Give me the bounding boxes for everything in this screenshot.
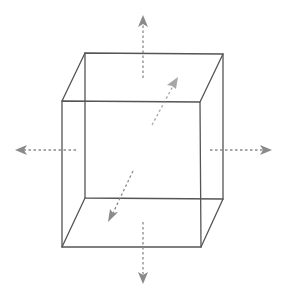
arrow-down-icon: [138, 222, 148, 284]
arrow-up-icon: [138, 15, 148, 78]
arrow-back-icon: [152, 77, 178, 125]
arrow-left-icon: [15, 145, 76, 155]
cube-edge-bottom-right: [201, 199, 223, 247]
arrow-front-icon: [108, 171, 133, 222]
cube-wireframe: [62, 53, 223, 247]
cube-edge-top-right: [200, 54, 223, 102]
cube-back-face: [85, 53, 223, 199]
arrow-right-icon: [210, 145, 272, 155]
arrows: [15, 15, 272, 284]
cube-edge-bottom-left: [62, 198, 85, 247]
cube-diagram: [0, 0, 282, 299]
cube-edge-top-left: [62, 53, 85, 101]
cube-front-face: [62, 101, 201, 247]
